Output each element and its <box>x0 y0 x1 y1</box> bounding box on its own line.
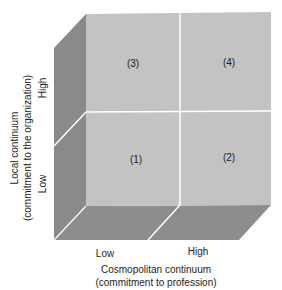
front-face <box>86 12 271 206</box>
bottom-face <box>54 205 271 240</box>
left-side-face <box>54 14 86 240</box>
cell-label-2: (2) <box>223 152 235 163</box>
horizontal-divider <box>86 111 271 112</box>
cell-label-1: (1) <box>130 154 142 165</box>
cube-diagram <box>0 0 282 290</box>
y-axis-title: Local continuum <box>9 112 20 185</box>
cell-label-4: (4) <box>223 57 235 68</box>
x-axis-tick-low: Low <box>96 248 114 259</box>
y-axis-tick-low: Low <box>37 175 48 193</box>
x-axis-subtitle: (commitment to profession) <box>95 277 216 288</box>
y-axis-tick-high: High <box>37 78 48 99</box>
x-axis-title: Cosmopolitan continuum <box>101 264 211 275</box>
x-axis-tick-high: High <box>188 246 209 257</box>
cell-label-3: (3) <box>127 58 139 69</box>
y-axis-subtitle: (commitment to the organization) <box>22 75 33 221</box>
